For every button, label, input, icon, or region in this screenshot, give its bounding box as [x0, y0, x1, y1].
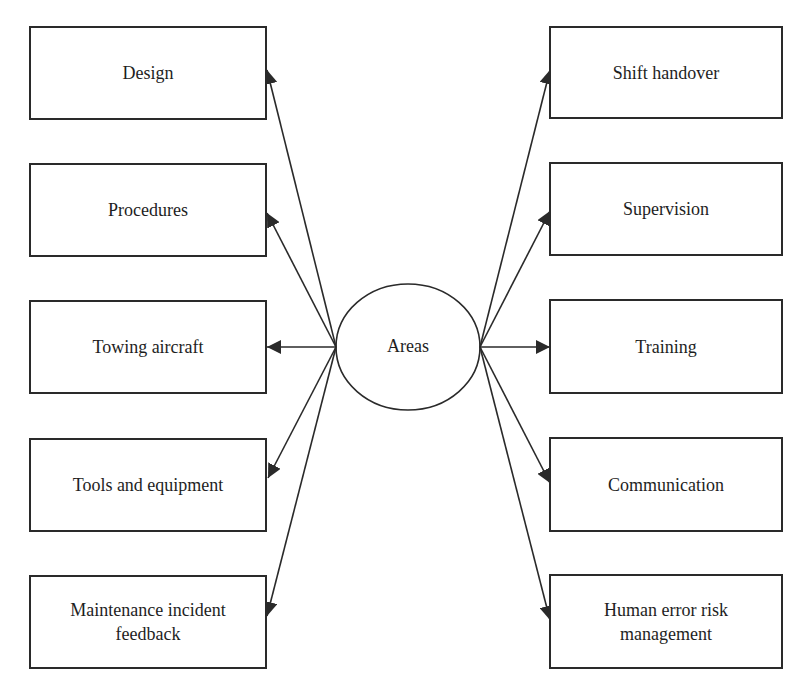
node-label: Human error risk management [598, 598, 734, 646]
diagram-canvas: AreasDesignProceduresTowing aircraftTool… [0, 0, 806, 695]
node-human-error-risk-management: Human error risk management [549, 574, 783, 669]
node-label: Communication [602, 473, 730, 497]
arrow-to-human-error-risk-management [480, 347, 550, 620]
arrow-to-tools-and-equipment [268, 347, 336, 478]
node-label: Towing aircraft [86, 335, 209, 359]
node-label: Design [117, 61, 180, 85]
node-label: Training [629, 335, 702, 359]
node-label: Procedures [102, 198, 194, 222]
node-shift-handover: Shift handover [549, 26, 783, 119]
node-label: Shift handover [607, 61, 725, 85]
node-communication: Communication [549, 437, 783, 532]
node-tools-and-equipment: Tools and equipment [29, 438, 267, 532]
node-label: Supervision [617, 197, 715, 221]
arrow-to-procedures [267, 213, 336, 347]
node-design: Design [29, 26, 267, 120]
arrow-to-communication [480, 347, 550, 483]
arrow-to-shift-handover [480, 70, 550, 347]
node-towing-aircraft: Towing aircraft [29, 300, 267, 394]
node-procedures: Procedures [29, 163, 267, 257]
node-label: Tools and equipment [67, 473, 230, 497]
arrow-to-maintenance-incident-feedback [267, 347, 336, 616]
arrow-to-supervision [480, 211, 550, 347]
node-label: Maintenance incident feedback [64, 598, 231, 646]
center-label: Areas [336, 334, 480, 358]
node-training: Training [549, 299, 783, 394]
node-supervision: Supervision [549, 162, 783, 256]
arrow-to-design [267, 70, 336, 347]
node-maintenance-incident-feedback: Maintenance incident feedback [29, 575, 267, 669]
